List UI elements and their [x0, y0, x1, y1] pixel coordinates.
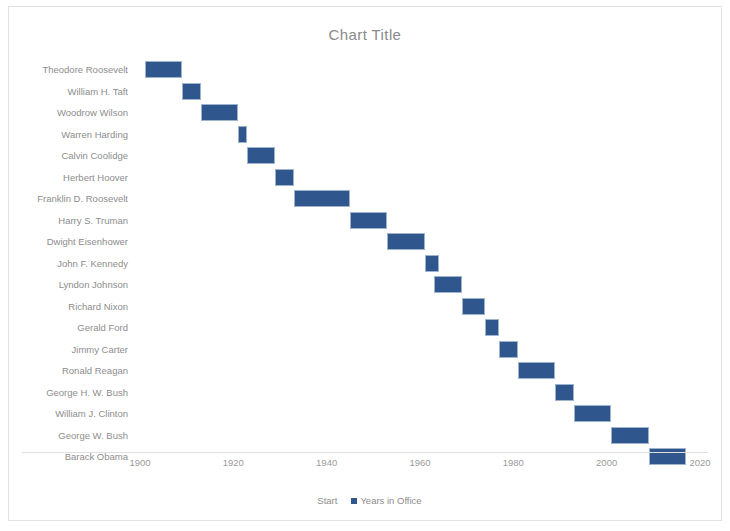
category-label: Harry S. Truman [0, 215, 128, 226]
gantt-bar [275, 169, 294, 186]
category-label: Lyndon Johnson [0, 279, 128, 290]
gantt-bar [611, 427, 648, 444]
category-label: Jimmy Carter [0, 344, 128, 355]
category-label: George W. Bush [0, 430, 128, 441]
legend-swatch-icon [308, 498, 314, 504]
legend-label: Years in Office [360, 495, 421, 506]
x-tick-label: 2020 [670, 457, 730, 468]
category-label: Franklin D. Roosevelt [0, 193, 128, 204]
category-label: Richard Nixon [0, 301, 128, 312]
gantt-bar [145, 61, 182, 78]
gantt-bar [294, 190, 350, 207]
gantt-bar [574, 405, 611, 422]
category-label: Theodore Roosevelt [0, 64, 128, 75]
category-label: Dwight Eisenhower [0, 236, 128, 247]
legend-swatch-icon [351, 498, 357, 504]
gantt-bar [182, 83, 201, 100]
gantt-bar [555, 384, 574, 401]
category-label: Woodrow Wilson [0, 107, 128, 118]
category-label: Ronald Reagan [0, 365, 128, 376]
gantt-bar [499, 341, 518, 358]
x-tick-label: 1960 [390, 457, 450, 468]
legend-item[interactable]: Years in Office [351, 494, 421, 506]
category-label: Warren Harding [0, 129, 128, 140]
x-tick-label: 1920 [203, 457, 263, 468]
category-label: William J. Clinton [0, 408, 128, 419]
gantt-bar [387, 233, 424, 250]
category-label: Calvin Coolidge [0, 150, 128, 161]
chart-container: Chart Title Theodore RooseveltWilliam H.… [0, 0, 730, 531]
x-tick-label: 1980 [483, 457, 543, 468]
x-tick-label: 2000 [577, 457, 637, 468]
gantt-bar [201, 104, 238, 121]
legend-item[interactable]: Start [308, 494, 337, 506]
gantt-bar [434, 276, 462, 293]
category-label: William H. Taft [0, 86, 128, 97]
legend-label: Start [317, 495, 337, 506]
x-tick-label: 1900 [110, 457, 170, 468]
gantt-bar [238, 126, 247, 143]
gantt-bar [485, 319, 499, 336]
gantt-bar [462, 298, 485, 315]
gantt-bar [518, 362, 555, 379]
category-label: John F. Kennedy [0, 258, 128, 269]
category-label: Gerald Ford [0, 322, 128, 333]
category-label: Herbert Hoover [0, 172, 128, 183]
category-label: George H. W. Bush [0, 387, 128, 398]
x-tick-label: 1940 [297, 457, 357, 468]
x-axis-line [22, 452, 708, 453]
gantt-bar [350, 212, 387, 229]
chart-legend: StartYears in Office [0, 494, 730, 506]
gantt-bar [425, 255, 439, 272]
gantt-bar [247, 147, 275, 164]
